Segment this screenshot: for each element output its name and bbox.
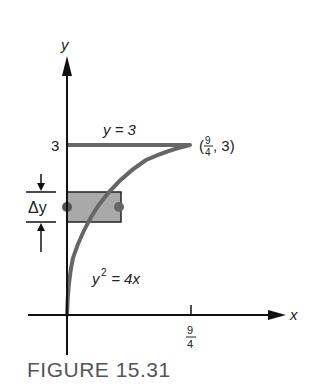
parabola-curve	[67, 145, 190, 315]
delta-y-label: Δy	[28, 199, 47, 216]
x-axis-arrow-icon	[268, 310, 286, 320]
point-label-rest: , 3)	[213, 137, 235, 154]
figure-caption: FIGURE 15.31	[27, 358, 171, 382]
y-tick-label-3: 3	[51, 137, 59, 154]
point-label-denominator: 4	[205, 147, 211, 158]
figure-canvas: y x 3 9 4 y = 3 ( 9 4 , 3) Δy y 2 = 4x	[0, 0, 322, 390]
x-axis-label: x	[289, 306, 298, 323]
arrow-down-icon	[37, 183, 45, 191]
curve-label-base: y	[91, 270, 101, 287]
horizontal-strip	[67, 192, 121, 222]
point-label-open: (	[199, 137, 204, 154]
x-tick-numerator: 9	[187, 324, 193, 336]
curve-label-rest: = 4x	[107, 270, 140, 287]
strip-right-dot	[114, 202, 124, 212]
point-label-numerator: 9	[205, 135, 211, 146]
y-axis-arrow-icon	[62, 56, 72, 76]
line-label: y = 3	[102, 121, 137, 138]
x-tick-denominator: 4	[187, 338, 193, 350]
y-axis-label: y	[60, 36, 70, 53]
arrow-up-icon	[37, 223, 45, 231]
